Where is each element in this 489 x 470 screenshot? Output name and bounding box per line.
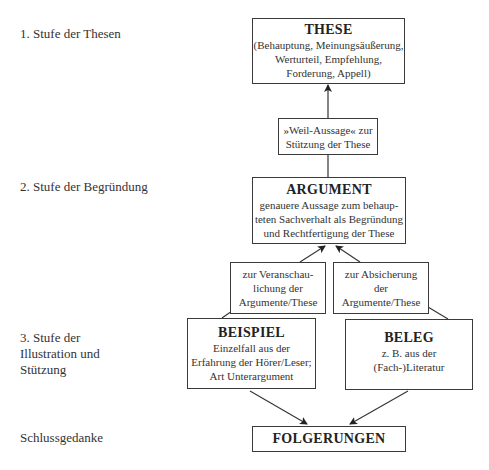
beispiel-title: BEISPIEL — [218, 325, 285, 341]
stage-label-illustration: 3. Stufe der Illustration und Stützung — [20, 330, 100, 378]
connector-arrows — [0, 0, 489, 470]
stage-label-thesen: 1. Stufe der Thesen — [20, 26, 121, 42]
argument-box: ARGUMENT genauere Aussage zum behaup- te… — [252, 177, 406, 244]
veranschaulichung-box: zur Veranschau- lichung der Argumente/Th… — [230, 262, 326, 314]
beleg-box: BELEG z. B. aus der (Fach-)Literatur — [345, 319, 473, 390]
beispiel-box: BEISPIEL Einzelfall aus der Erfahrung de… — [187, 318, 316, 389]
argument-desc: genauere Aussage zum behaup- teten Sachv… — [255, 198, 403, 240]
stage-label-schlussgedanke: Schlussgedanke — [20, 430, 103, 446]
argument-title: ARGUMENT — [286, 182, 372, 198]
veranschaulichung-desc: zur Veranschau- lichung der Argumente/Th… — [239, 267, 318, 309]
absicherung-desc: zur Absicherung der Argumente/These — [342, 267, 421, 309]
absicherung-box: zur Absicherung der Argumente/These — [333, 262, 429, 314]
weil-aussage-box: »Weil-Aussage« zur Stützung der These — [278, 118, 378, 155]
folgerungen-box: FOLGERUNGEN — [252, 426, 406, 452]
beispiel-desc: Einzelfall aus der Erfahrung der Hörer/L… — [191, 341, 311, 383]
these-box: THESE (Behauptung, Meinungsäußerung, Wer… — [252, 18, 405, 84]
beleg-title: BELEG — [384, 330, 434, 346]
folgerungen-title: FOLGERUNGEN — [273, 431, 386, 447]
these-desc: (Behauptung, Meinungsäußerung, Werturtei… — [254, 38, 404, 80]
weil-aussage-desc: »Weil-Aussage« zur Stützung der These — [283, 123, 372, 151]
beleg-desc: z. B. aus der (Fach-)Literatur — [374, 346, 445, 374]
these-title: THESE — [304, 22, 352, 38]
stage-label-begruendung: 2. Stufe der Begründung — [20, 179, 148, 195]
